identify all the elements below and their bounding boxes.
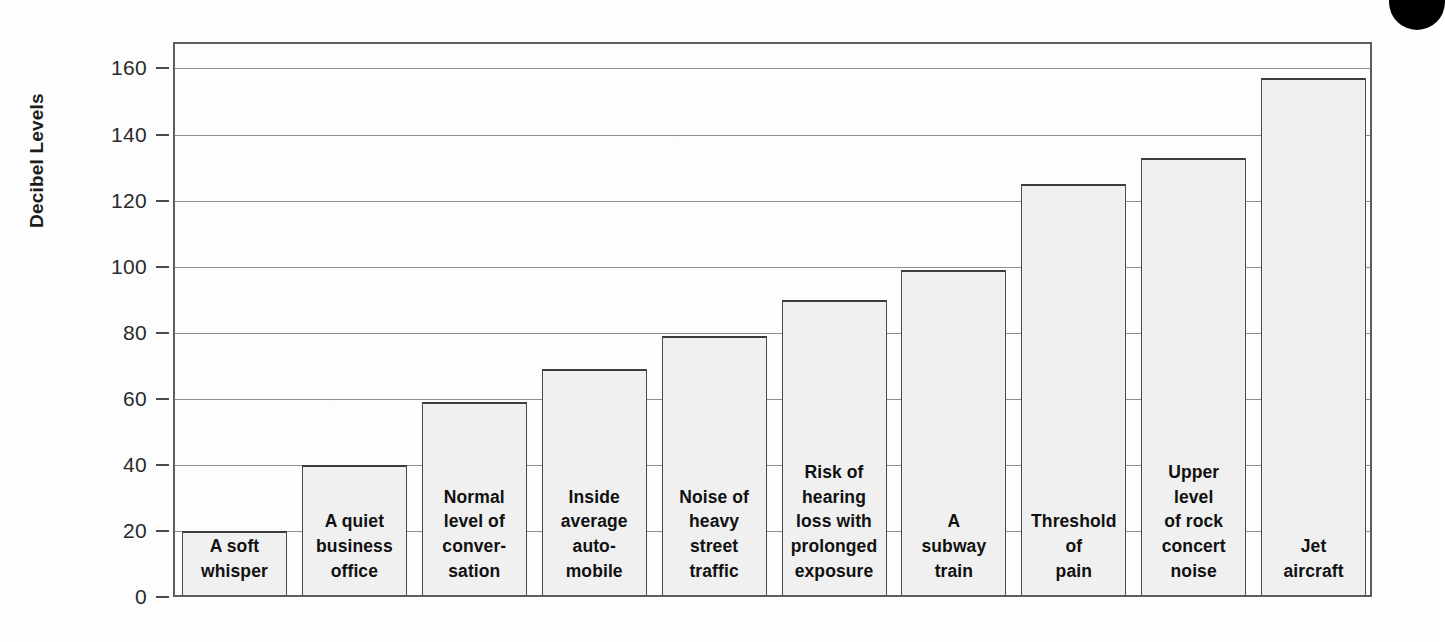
y-tick-label-60: 60	[77, 387, 147, 411]
y-tick-label-160: 160	[77, 56, 147, 80]
y-tick-label-100: 100	[77, 255, 147, 279]
y-tick-mark-80	[156, 332, 169, 334]
bar-chart: A softwhisperA quietbusinessofficeNormal…	[173, 42, 1372, 597]
y-tick-label-80: 80	[77, 321, 147, 345]
y-tick-mark-40	[156, 464, 169, 466]
y-tick-mark-140	[156, 134, 169, 136]
y-tick-mark-20	[156, 530, 169, 532]
y-tick-mark-120	[156, 200, 169, 202]
y-tick-label-20: 20	[77, 519, 147, 543]
y-tick-mark-100	[156, 266, 169, 268]
y-tick-label-0: 0	[77, 585, 147, 609]
y-tick-mark-160	[156, 67, 169, 69]
corner-ink-mark	[1389, 0, 1445, 30]
y-tick-label-40: 40	[77, 453, 147, 477]
y-tick-mark-60	[156, 398, 169, 400]
y-tick-label-140: 140	[77, 123, 147, 147]
y-axis-title: Decibel Levels	[26, 48, 48, 228]
y-tick-label-120: 120	[77, 189, 147, 213]
y-tick-mark-0	[156, 596, 169, 598]
plot-frame	[173, 42, 1372, 597]
